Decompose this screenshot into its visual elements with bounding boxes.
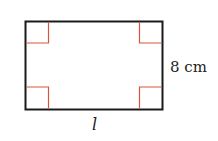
right-angle-marker-bottom-left — [27, 87, 49, 109]
height-label: 8 cm — [170, 58, 207, 76]
length-label: l — [92, 115, 97, 134]
rectangle-diagram: 8 cm l — [0, 0, 218, 141]
right-angle-marker-bottom-right — [140, 87, 162, 109]
rectangle-outline — [26, 22, 163, 110]
right-angle-marker-top-right — [140, 23, 162, 44]
right-angle-markers — [27, 23, 162, 109]
right-angle-marker-top-left — [27, 23, 49, 44]
